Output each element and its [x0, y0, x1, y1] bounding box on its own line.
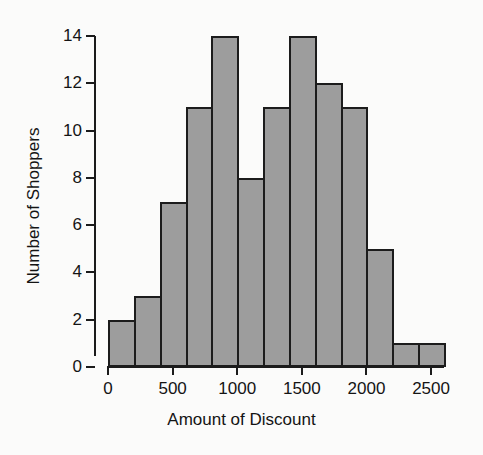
histogram-bar	[186, 107, 214, 367]
y-axis-title: Number of Shoppers	[24, 106, 44, 306]
histogram-bar	[211, 36, 239, 367]
y-axis-tick-label: 8	[40, 169, 82, 186]
x-axis-tick-label: 2500	[396, 380, 466, 397]
x-axis-line	[108, 366, 444, 368]
y-axis-tick	[86, 271, 95, 273]
y-axis-tick	[86, 319, 95, 321]
histogram-bar	[366, 249, 394, 367]
y-axis-tick-label: 2	[40, 311, 82, 328]
histogram-bar	[108, 320, 136, 367]
x-axis-tick	[301, 366, 303, 375]
y-axis-tick-label: 12	[40, 74, 82, 91]
y-axis-tick-label: 14	[40, 27, 82, 44]
x-axis-tick-label: 0	[73, 380, 143, 397]
y-axis-tick	[86, 366, 95, 368]
x-axis-tick	[365, 366, 367, 375]
x-axis-title: Amount of Discount	[0, 410, 483, 430]
x-axis-tick-label: 1000	[202, 380, 272, 397]
x-axis-tick	[430, 366, 432, 375]
y-axis-tick-label: 4	[40, 263, 82, 280]
x-axis-tick-label: 2000	[331, 380, 401, 397]
y-axis-tick-label: 10	[40, 122, 82, 139]
x-axis-tick	[172, 366, 174, 375]
histogram-bar	[134, 296, 162, 367]
histogram-bar	[237, 178, 265, 367]
plot-area: 02468101214 05001000150020002500 Number …	[0, 0, 483, 455]
histogram-bar	[160, 202, 188, 368]
y-axis-tick	[86, 35, 95, 37]
histogram-figure: 02468101214 05001000150020002500 Number …	[0, 0, 483, 455]
y-axis-tick-label: 0	[40, 358, 82, 375]
y-axis-tick	[86, 130, 95, 132]
y-axis-tick-label: 6	[40, 216, 82, 233]
y-axis-tick	[86, 224, 95, 226]
histogram-bar	[392, 343, 420, 367]
histogram-bar	[341, 107, 369, 367]
x-axis-tick	[236, 366, 238, 375]
histogram-bar	[418, 343, 446, 367]
x-axis-tick-label: 500	[138, 380, 208, 397]
histogram-bar	[315, 83, 343, 367]
x-axis-tick-label: 1500	[267, 380, 337, 397]
histogram-bar	[263, 107, 291, 367]
y-axis-tick	[86, 177, 95, 179]
x-axis-tick	[107, 366, 109, 375]
y-axis-tick	[86, 82, 95, 84]
histogram-bar	[289, 36, 317, 367]
